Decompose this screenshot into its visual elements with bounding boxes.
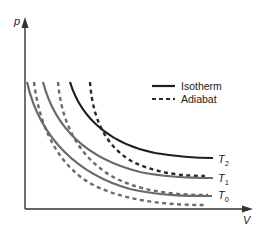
legend-isotherm-label: Isotherm <box>181 80 222 92</box>
pv-diagram: p V T2 T1 T0 Isotherm Adiabat <box>0 0 268 235</box>
y-axis-label: p <box>13 15 20 27</box>
legend: Isotherm Adiabat <box>152 80 222 105</box>
curve-label-t2: T2 <box>218 153 229 168</box>
curve-label-t0: T0 <box>218 189 229 204</box>
x-axis-label: V <box>243 214 252 226</box>
y-axis-arrow-icon <box>22 17 29 28</box>
x-axis-arrow-icon <box>242 206 253 213</box>
legend-adiabat-label: Adiabat <box>181 93 217 105</box>
curve-label-t1: T1 <box>218 172 229 187</box>
